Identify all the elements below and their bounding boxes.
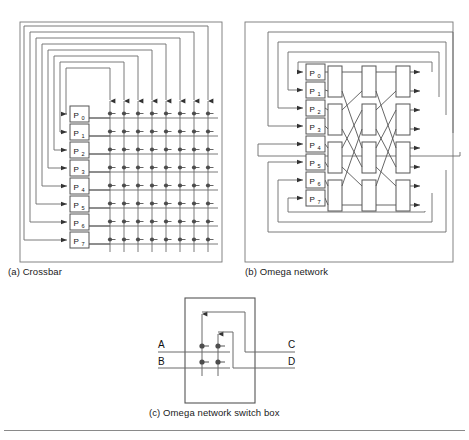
- omega-switch[interactable]: [362, 66, 376, 97]
- crosspoint-switch[interactable]: [108, 237, 116, 241]
- crosspoint-switch[interactable]: [122, 237, 130, 241]
- crosspoint-switch[interactable]: [206, 237, 214, 241]
- crosspoint-switch[interactable]: [122, 111, 130, 115]
- crosspoint-switch[interactable]: [178, 183, 186, 187]
- crosspoint-switch[interactable]: [108, 219, 116, 223]
- omega-processor-0[interactable]: P0: [306, 64, 325, 80]
- crosspoint-switch[interactable]: [150, 183, 158, 187]
- omega-switch[interactable]: [396, 66, 410, 97]
- omega-switch[interactable]: [328, 66, 342, 97]
- crossbar-processor-6[interactable]: P6: [70, 214, 89, 230]
- omega-processor-7[interactable]: P7: [306, 190, 325, 206]
- crosspoint-switch[interactable]: [108, 165, 116, 169]
- crosspoint-switch[interactable]: [192, 129, 200, 133]
- omega-switch[interactable]: [328, 180, 342, 211]
- crosspoint-switch[interactable]: [164, 129, 172, 133]
- crosspoint-switch[interactable]: [122, 219, 130, 223]
- crosspoint-switch[interactable]: [206, 219, 214, 223]
- crosspoint-switch[interactable]: [192, 237, 200, 241]
- crossbar-processor-1[interactable]: P1: [70, 124, 89, 140]
- crosspoint-switch[interactable]: [178, 219, 186, 223]
- omega-processor-4[interactable]: P4: [306, 136, 325, 152]
- switchbox-crosspoint[interactable]: [215, 359, 225, 364]
- crosspoint-switch[interactable]: [164, 165, 172, 169]
- crossbar-processor-2[interactable]: P2: [70, 142, 89, 158]
- crosspoint-switch[interactable]: [136, 219, 144, 223]
- switchbox-crosspoint[interactable]: [199, 343, 209, 348]
- crosspoint-switch[interactable]: [150, 201, 158, 205]
- crosspoint-switch[interactable]: [178, 237, 186, 241]
- omega-processor-5[interactable]: P5: [306, 154, 325, 170]
- crosspoint-switch[interactable]: [108, 147, 116, 151]
- crossbar-processor-5[interactable]: P5: [70, 196, 89, 212]
- omega-switch[interactable]: [362, 180, 376, 211]
- crosspoint-switch[interactable]: [150, 147, 158, 151]
- crosspoint-switch[interactable]: [136, 165, 144, 169]
- crosspoint-switch[interactable]: [164, 111, 172, 115]
- crosspoint-switch[interactable]: [206, 147, 214, 151]
- crosspoint-switch[interactable]: [192, 201, 200, 205]
- omega-switch[interactable]: [328, 104, 342, 135]
- crosspoint-switch[interactable]: [108, 111, 116, 115]
- crosspoint-switch[interactable]: [206, 111, 214, 115]
- crosspoint-switch[interactable]: [178, 201, 186, 205]
- crosspoint-switch[interactable]: [122, 183, 130, 187]
- crosspoint-switch[interactable]: [150, 219, 158, 223]
- crosspoint-switch[interactable]: [122, 129, 130, 133]
- crosspoint-switch[interactable]: [136, 111, 144, 115]
- crosspoint-switch[interactable]: [164, 201, 172, 205]
- panel-switch-box: A B C D (c) Omega network switch box: [130, 290, 350, 420]
- crosspoint-switch[interactable]: [136, 129, 144, 133]
- crosspoint-switch[interactable]: [108, 129, 116, 133]
- crosspoint-switch[interactable]: [192, 111, 200, 115]
- processor-index: 5: [82, 205, 85, 211]
- omega-switch[interactable]: [396, 142, 410, 173]
- crossbar-processor-0[interactable]: P0: [70, 106, 89, 122]
- switchbox-crosspoint[interactable]: [199, 359, 209, 364]
- crossbar-processor-3[interactable]: P3: [70, 160, 89, 176]
- crosspoint-switch[interactable]: [192, 147, 200, 151]
- switchbox-crosspoint[interactable]: [215, 343, 225, 348]
- crosspoint-switch[interactable]: [192, 219, 200, 223]
- crosspoint-switch[interactable]: [150, 129, 158, 133]
- crosspoint-switch[interactable]: [136, 201, 144, 205]
- processor-letter: P: [74, 201, 79, 210]
- crossbar-processor-7[interactable]: P7: [70, 232, 89, 248]
- crosspoint-switch[interactable]: [108, 201, 116, 205]
- crosspoint-switch[interactable]: [164, 147, 172, 151]
- omega-processor-1[interactable]: P1: [306, 82, 325, 98]
- crosspoint-switch[interactable]: [108, 183, 116, 187]
- crosspoint-switch[interactable]: [150, 165, 158, 169]
- crosspoint-switch[interactable]: [122, 165, 130, 169]
- crosspoint-switch[interactable]: [192, 165, 200, 169]
- omega-processor-6[interactable]: P6: [306, 172, 325, 188]
- processor-index: 2: [82, 151, 85, 157]
- crosspoint-switch[interactable]: [150, 237, 158, 241]
- crosspoint-switch[interactable]: [206, 183, 214, 187]
- crosspoint-switch[interactable]: [122, 201, 130, 205]
- crosspoint-switch[interactable]: [206, 201, 214, 205]
- crosspoint-switch[interactable]: [164, 237, 172, 241]
- omega-switch[interactable]: [362, 104, 376, 135]
- crosspoint-switch[interactable]: [178, 111, 186, 115]
- crosspoint-switch[interactable]: [136, 237, 144, 241]
- omega-switch[interactable]: [328, 142, 342, 173]
- omega-switch[interactable]: [396, 104, 410, 135]
- crosspoint-switch[interactable]: [164, 219, 172, 223]
- omega-processor-3[interactable]: P3: [306, 118, 325, 134]
- omega-switch[interactable]: [396, 180, 410, 211]
- crosspoint-switch[interactable]: [136, 183, 144, 187]
- crossbar-processor-4[interactable]: P4: [70, 178, 89, 194]
- crosspoint-switch[interactable]: [164, 183, 172, 187]
- crosspoint-switch[interactable]: [206, 165, 214, 169]
- crosspoint-switch[interactable]: [178, 147, 186, 151]
- crosspoint-switch[interactable]: [178, 165, 186, 169]
- omega-switch[interactable]: [362, 142, 376, 173]
- omega-processor-2[interactable]: P2: [306, 100, 325, 116]
- crosspoint-switch[interactable]: [206, 129, 214, 133]
- crosspoint-switch[interactable]: [178, 129, 186, 133]
- crosspoint-switch[interactable]: [150, 111, 158, 115]
- crosspoint-switch[interactable]: [136, 147, 144, 151]
- crosspoint-switch[interactable]: [192, 183, 200, 187]
- crosspoint-switch[interactable]: [122, 147, 130, 151]
